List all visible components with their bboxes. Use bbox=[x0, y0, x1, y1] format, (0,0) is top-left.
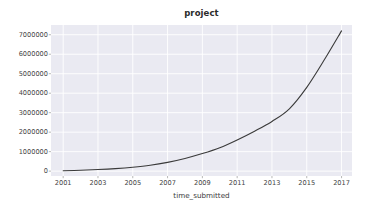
x-axis-label: time_submitted bbox=[51, 191, 352, 200]
x-tick-label: 2011 bbox=[222, 179, 252, 187]
x-tick-label: 2009 bbox=[187, 179, 217, 187]
x-tick-label: 2001 bbox=[48, 179, 78, 187]
x-tick-label: 2003 bbox=[83, 179, 113, 187]
matplotlib-figure: project 01000000200000030000004000000500… bbox=[0, 0, 369, 211]
x-tick-label: 2015 bbox=[292, 179, 322, 187]
x-tick-label: 2013 bbox=[257, 179, 287, 187]
x-tick-label: 2017 bbox=[327, 179, 357, 187]
x-axis-tick-labels: 200120032005200720092011201320152017 bbox=[0, 0, 369, 211]
x-tick-label: 2005 bbox=[118, 179, 148, 187]
x-tick-label: 2007 bbox=[153, 179, 183, 187]
